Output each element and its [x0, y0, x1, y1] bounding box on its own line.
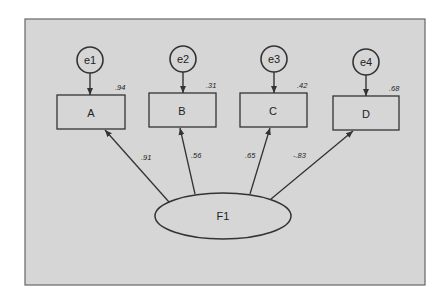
error-label: e2: [177, 53, 189, 65]
r-squared-value: .42: [297, 81, 308, 90]
error-label: e1: [84, 54, 96, 66]
error-node-e4: e4: [353, 49, 379, 75]
loading-value-d: -.83: [293, 151, 307, 160]
r-squared-value: .31: [206, 81, 216, 90]
diagram-canvas: e1 e2 e3 e4 A .94 B .31 C .42 D .68: [0, 0, 447, 307]
latent-factor-f1: F1: [155, 193, 291, 239]
error-node-e3: e3: [261, 46, 287, 72]
error-label: e4: [360, 56, 372, 68]
r-squared-value: .68: [389, 84, 400, 93]
indicator-label: D: [362, 108, 370, 120]
indicator-label: A: [87, 107, 95, 119]
error-node-e2: e2: [170, 46, 196, 72]
loading-value-c: .65: [245, 151, 256, 160]
loading-value-a: .91: [141, 153, 151, 162]
factor-label: F1: [217, 210, 230, 222]
indicator-label: C: [269, 105, 277, 117]
r-squared-value: .94: [115, 83, 125, 92]
error-label: e3: [268, 53, 280, 65]
indicator-label: B: [178, 105, 185, 117]
error-node-e1: e1: [77, 47, 103, 73]
loading-value-b: .56: [191, 151, 202, 160]
